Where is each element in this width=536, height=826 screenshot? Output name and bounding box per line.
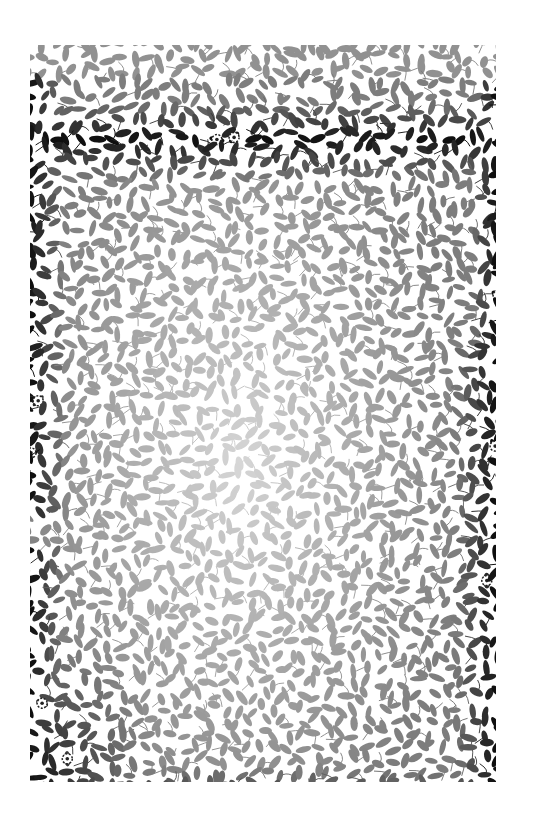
- leaf-pattern-illustration: [30, 45, 496, 782]
- floral-pattern-panel: [30, 45, 496, 782]
